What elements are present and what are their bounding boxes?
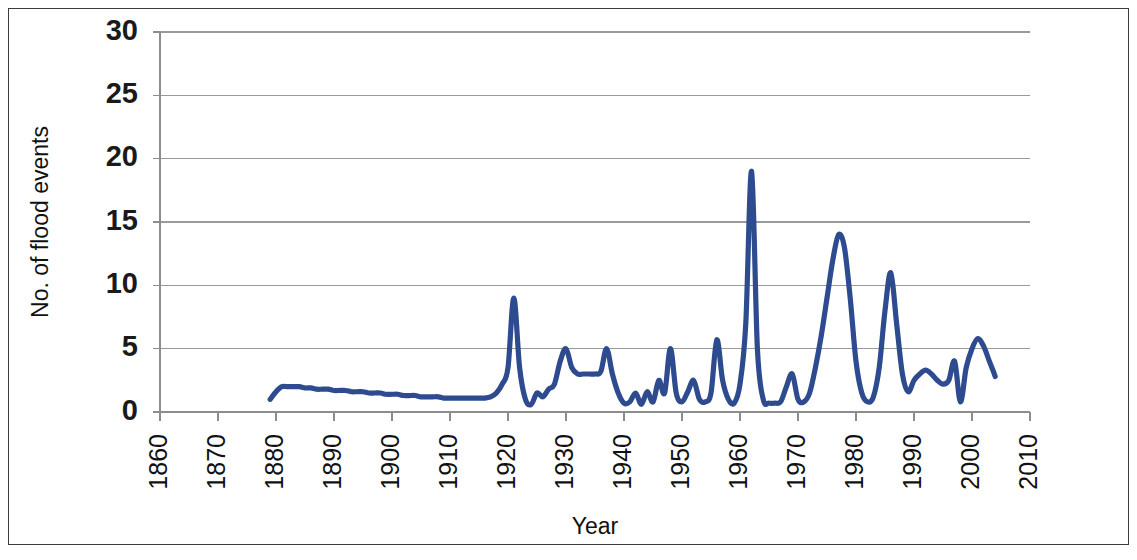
x-tick-label: 2000: [956, 434, 984, 490]
x-tick-label: 1890: [318, 434, 346, 490]
x-tick-labels-group: 1860187018801890190019101920193019401950…: [144, 434, 1042, 490]
x-tick-label: 1960: [724, 434, 752, 490]
data-series-line: [270, 171, 995, 405]
x-tick-label: 1870: [202, 434, 230, 490]
x-tick-label: 1920: [492, 434, 520, 490]
y-tick-label: 5: [122, 330, 138, 362]
y-tickmarks-group: [153, 32, 160, 412]
line-chart-svg: 051015202530 186018701880189019001910192…: [0, 0, 1137, 560]
x-tick-label: 2010: [1014, 434, 1042, 490]
x-tick-label: 1990: [898, 434, 926, 490]
x-axis-title: Year: [572, 513, 619, 539]
x-tick-label: 1880: [260, 434, 288, 490]
x-tick-label: 1980: [840, 434, 868, 490]
flood-events-figure: 051015202530 186018701880189019001910192…: [0, 0, 1137, 560]
x-tick-label: 1910: [434, 434, 462, 490]
y-tick-label: 10: [106, 267, 138, 299]
chart-canvas: 051015202530 186018701880189019001910192…: [0, 0, 1137, 560]
y-tick-label: 0: [122, 394, 138, 426]
y-tick-label: 20: [106, 140, 138, 172]
x-tick-label: 1970: [782, 434, 810, 490]
x-tick-label: 1900: [376, 434, 404, 490]
y-axis-title: No. of flood events: [27, 126, 53, 318]
x-tick-label: 1860: [144, 434, 172, 490]
y-tick-label: 30: [106, 14, 138, 46]
x-tickmarks-group: [160, 412, 1030, 421]
y-tick-label: 15: [106, 204, 138, 236]
y-tick-label: 25: [106, 77, 138, 109]
x-tick-label: 1950: [666, 434, 694, 490]
y-tick-labels-group: 051015202530: [106, 14, 138, 426]
x-tick-label: 1930: [550, 434, 578, 490]
x-tick-label: 1940: [608, 434, 636, 490]
